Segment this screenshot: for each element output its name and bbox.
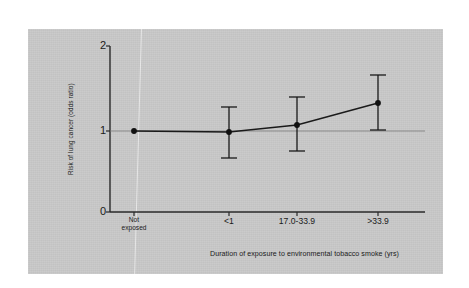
- plot-area: [0, 0, 469, 288]
- data-point-lt1: [226, 129, 232, 135]
- data-point-17-33: [294, 122, 300, 128]
- figure-container: Risk of lung cancer (odds ratio) 2 1 0 N…: [0, 0, 469, 288]
- series-line: [134, 103, 378, 132]
- data-point-gt33: [375, 100, 381, 106]
- data-point-not-exposed: [131, 128, 137, 134]
